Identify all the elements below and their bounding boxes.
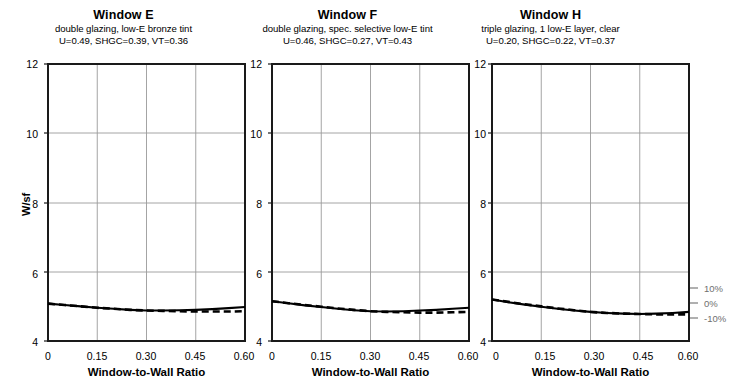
panel-window-h: Window H triple glazing, 1 low-E layer, … [448, 0, 695, 389]
gridlines-e [48, 64, 245, 341]
gridlines-f [272, 64, 469, 341]
panel-window-f: Window F double glazing, spec. selective… [224, 0, 471, 389]
panel-window-e: Window E double glazing, low-E bronze ti… [0, 0, 247, 389]
gridlines-h [492, 64, 689, 341]
plot-area-window-f [224, 0, 471, 389]
figure-container: Window E double glazing, low-E bronze ti… [0, 0, 742, 389]
plot-area-window-h [448, 0, 742, 389]
pct-ticks-h [689, 288, 698, 318]
plot-area-window-e [0, 0, 247, 389]
